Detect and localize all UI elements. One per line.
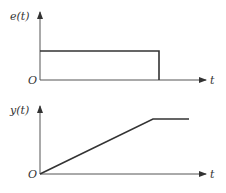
output-signal-plot: y(t) t O	[9, 104, 215, 181]
signal-diagram: e(t) t O y(t) t O	[0, 0, 226, 193]
input-signal-plot: e(t) t O	[10, 10, 215, 87]
y-xlabel: t	[210, 168, 215, 181]
e-origin-label: O	[28, 74, 37, 87]
y-ylabel: y(t)	[9, 104, 29, 117]
e-ylabel: e(t)	[10, 10, 30, 23]
e-xlabel: t	[210, 74, 215, 87]
e-pulse-curve	[40, 51, 159, 80]
y-origin-label: O	[28, 168, 37, 181]
y-ramp-curve	[40, 119, 189, 174]
